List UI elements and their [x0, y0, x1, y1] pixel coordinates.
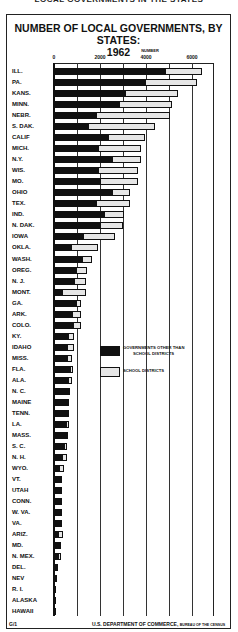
bar-other-governments: [54, 542, 61, 549]
bar-school-districts: [105, 211, 124, 218]
legend-label-school: SCHOOL DISTRICTS: [123, 368, 164, 374]
bar-school-districts: [74, 322, 81, 329]
source-credit: U.S. DEPARTMENT OF COMMERCE, BUREAU OF T…: [92, 621, 225, 627]
bar-other-governments: [54, 123, 89, 130]
bar-school-districts: [71, 366, 73, 373]
bar-school-districts: [57, 564, 59, 571]
bar-other-governments: [54, 377, 69, 384]
bar-other-governments: [54, 101, 120, 108]
top-caption: LOCAL GOVERNMENTS IN THE STATES: [0, 0, 238, 4]
bar-other-governments: [54, 189, 113, 196]
bar-school-districts: [77, 267, 87, 274]
state-label: CALIF: [12, 134, 30, 141]
state-label: LA.: [12, 421, 22, 428]
state-label: W. VA.: [12, 509, 30, 516]
bar-school-districts: [120, 101, 172, 108]
state-label: ALA.: [12, 377, 26, 384]
bar-other-governments: [54, 278, 75, 285]
state-label: MO.: [12, 178, 23, 185]
bar-other-governments: [54, 79, 146, 86]
state-label: UTAH: [12, 487, 28, 494]
legend-swatch-school: [100, 367, 120, 377]
state-label: MD.: [12, 542, 23, 549]
state-label: IOWA: [12, 233, 28, 240]
state-label: PA.: [12, 79, 22, 86]
state-label: GA.: [12, 300, 23, 307]
bar-school-districts: [65, 443, 67, 450]
state-label: ARK.: [12, 311, 27, 318]
bar-school-districts: [69, 377, 72, 384]
bar-other-governments: [54, 267, 77, 274]
state-label: KY.: [12, 333, 21, 340]
bar-other-governments: [54, 233, 84, 240]
bar-other-governments: [54, 322, 74, 329]
state-label: MAINE: [12, 399, 31, 406]
bar-school-districts: [146, 79, 197, 86]
state-label: TENN.: [12, 410, 30, 417]
legend-swatch-other: [100, 346, 120, 356]
state-label: COLO.: [12, 322, 31, 329]
bar-other-governments: [54, 68, 166, 75]
bar-other-governments: [54, 256, 83, 263]
state-label: KANS.: [12, 90, 31, 97]
bar-school-districts: [97, 200, 130, 207]
source-credit-main: U.S. DEPARTMENT OF COMMERCE,: [92, 621, 178, 627]
bar-school-districts: [63, 454, 67, 461]
state-label: DEL.: [12, 564, 26, 571]
bar-school-districts: [84, 233, 115, 240]
state-label: IND.: [12, 211, 24, 218]
state-label: R. I.: [12, 586, 23, 593]
bar-other-governments: [54, 399, 69, 406]
bar-other-governments: [54, 432, 68, 439]
bar-other-governments: [54, 344, 68, 351]
bar-school-districts: [60, 465, 64, 472]
state-label: NEBR.: [12, 112, 31, 119]
bar-other-governments: [54, 443, 65, 450]
state-label: MICH.: [12, 145, 29, 152]
bar-school-districts: [99, 167, 138, 174]
state-label: N. DAK.: [12, 222, 34, 229]
state-label: ARIZ.: [12, 531, 28, 538]
bar-other-governments: [54, 410, 69, 417]
bar-school-districts: [101, 178, 138, 185]
x-tick-label: 4000: [140, 54, 151, 60]
state-label: IDAHO: [12, 344, 31, 351]
source-credit-small: BUREAU OF THE CENSUS: [180, 623, 226, 627]
y-axis-line: [53, 63, 55, 616]
state-label: MASS.: [12, 432, 31, 439]
state-label: N. J.: [12, 278, 25, 285]
bar-school-districts: [59, 553, 61, 560]
bar-school-districts: [89, 123, 155, 130]
bar-school-districts: [113, 156, 141, 163]
bar-other-governments: [54, 200, 97, 207]
bar-other-governments: [54, 90, 126, 97]
bar-other-governments: [54, 289, 63, 296]
bar-other-governments: [54, 476, 62, 483]
bar-school-districts: [68, 355, 72, 362]
bar-school-districts: [77, 300, 81, 307]
bar-other-governments: [54, 421, 67, 428]
gridline: [192, 63, 193, 616]
bar-school-districts: [99, 145, 141, 152]
bar-other-governments: [54, 244, 72, 251]
bar-other-governments: [54, 156, 113, 163]
state-label: WIS.: [12, 167, 25, 174]
state-label: TEX.: [12, 200, 25, 207]
bar-school-districts: [73, 311, 81, 318]
state-label: WYO.: [12, 465, 28, 472]
state-label: S. C.: [12, 443, 25, 450]
state-label: OHIO: [12, 189, 27, 196]
bar-other-governments: [54, 178, 101, 185]
bar-school-districts: [83, 256, 92, 263]
bar-other-governments: [54, 355, 68, 362]
state-label: WASH.: [12, 256, 32, 263]
gridline: [146, 63, 147, 616]
bar-other-governments: [54, 520, 62, 527]
gridline: [169, 63, 170, 616]
bar-school-districts: [59, 531, 63, 538]
bar-school-districts: [166, 68, 202, 75]
state-label: NEV: [12, 575, 24, 582]
legend-label-other: GOVERNMENTS OTHER THAN SCHOOL DISTRICTS: [123, 345, 184, 357]
state-label: MINN.: [12, 101, 29, 108]
bar-other-governments: [54, 167, 99, 174]
